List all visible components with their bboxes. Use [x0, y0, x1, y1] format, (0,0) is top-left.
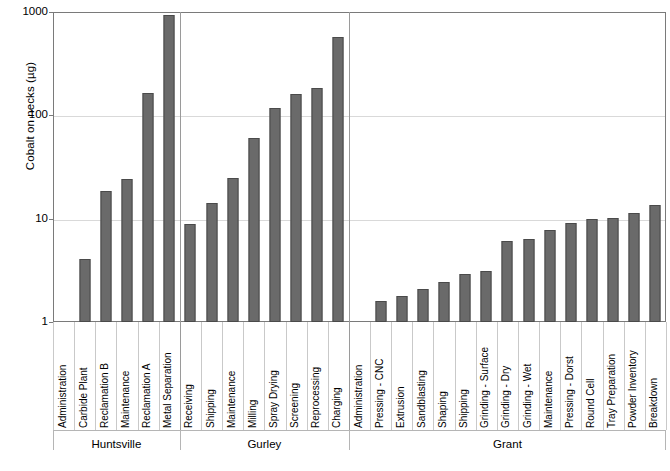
category-separator	[286, 322, 287, 430]
y-tick-label: 10	[8, 213, 48, 225]
category-separator	[53, 322, 54, 430]
bar	[650, 205, 661, 322]
category-separator	[264, 322, 265, 430]
bar-slot	[243, 12, 264, 322]
bar-slot	[138, 12, 159, 322]
category-separator	[518, 322, 519, 430]
category-label: Shipping	[459, 389, 469, 428]
bar-slot	[307, 12, 328, 322]
category-separator	[497, 322, 498, 430]
bar	[248, 138, 259, 322]
bar-slot	[497, 12, 518, 322]
category-label: Grinding - Dry	[501, 366, 511, 428]
y-tick-mark	[49, 322, 53, 323]
bar	[608, 218, 619, 322]
category-label: Maintenance	[227, 371, 237, 428]
category-separator	[603, 322, 604, 430]
category-label: Pressing - CNC	[375, 359, 385, 428]
bars-layer	[53, 12, 666, 322]
category-label: Metal Separation	[163, 352, 173, 428]
category-separator	[433, 322, 434, 430]
bar	[121, 179, 132, 322]
category-label: Pressing - Dorst	[565, 356, 575, 428]
category-separator	[95, 322, 96, 430]
bar	[206, 203, 217, 322]
category-separator	[370, 322, 371, 430]
y-tick-mark	[49, 115, 53, 116]
group-label: Huntsville	[53, 438, 180, 450]
group-rule	[53, 430, 180, 431]
category-separator	[328, 322, 329, 430]
bar	[291, 94, 302, 322]
bar-slot	[53, 12, 74, 322]
category-separator	[138, 322, 139, 430]
category-separator	[201, 322, 202, 430]
category-separator	[391, 322, 392, 430]
category-separator	[560, 322, 561, 430]
bar	[375, 301, 386, 322]
category-label: Powder Inventory	[628, 350, 638, 428]
bar-slot	[476, 12, 497, 322]
category-separator	[307, 322, 308, 430]
category-separator	[243, 322, 244, 430]
group-rule	[180, 430, 349, 431]
bar-slot	[286, 12, 307, 322]
category-label: Administration	[58, 365, 68, 428]
bar-slot	[624, 12, 645, 322]
y-tick-mark	[49, 219, 53, 220]
category-separator	[116, 322, 117, 430]
group-label-band: HuntsvilleGurleyGrant	[53, 430, 666, 462]
category-label: Administration	[354, 365, 364, 428]
category-label: Reclamation B	[100, 363, 110, 428]
category-label: Milling	[248, 400, 258, 428]
y-tick-label: 1000	[8, 6, 48, 18]
category-label: Sandblasting	[417, 370, 427, 428]
bar-slot	[433, 12, 454, 322]
bar-slot	[201, 12, 222, 322]
bar-slot	[222, 12, 243, 322]
bar	[565, 223, 576, 322]
category-label: Shipping	[206, 389, 216, 428]
category-label-band: AdministrationCarbide PlantReclamation B…	[53, 322, 666, 430]
bar-slot	[645, 12, 666, 322]
bar-slot	[370, 12, 391, 322]
bar	[523, 239, 534, 322]
bar-slot	[180, 12, 201, 322]
bar	[100, 191, 111, 322]
bar-slot	[539, 12, 560, 322]
bar	[417, 289, 428, 322]
category-separator	[74, 322, 75, 430]
bar-slot	[391, 12, 412, 322]
bar	[629, 213, 640, 322]
bar-slot	[159, 12, 180, 322]
bar-slot	[116, 12, 137, 322]
category-label: Spray Drying	[269, 370, 279, 428]
bar	[143, 93, 154, 322]
category-label: Maintenance	[121, 371, 131, 428]
category-label: Breakdown	[649, 378, 659, 428]
bar	[460, 274, 471, 322]
cobalt-on-necks-bar-chart: Cobalt on necks (µg) AdministrationCarbi…	[0, 0, 670, 471]
category-label: Grinding - Surface	[480, 347, 490, 428]
category-separator	[412, 322, 413, 430]
bar-slot	[455, 12, 476, 322]
bar-slot	[581, 12, 602, 322]
bar-slot	[95, 12, 116, 322]
category-label: Receiving	[184, 384, 194, 428]
bar	[396, 296, 407, 322]
bar-slot	[560, 12, 581, 322]
bar	[502, 241, 513, 322]
bar	[587, 219, 598, 322]
category-separator	[159, 322, 160, 430]
category-separator	[222, 322, 223, 430]
bar	[164, 15, 175, 322]
bar-slot	[603, 12, 624, 322]
category-label: Shaping	[438, 391, 448, 428]
bar-slot	[74, 12, 95, 322]
category-label: Round Cell	[586, 379, 596, 428]
y-tick-label: 100	[8, 109, 48, 121]
category-label: Maintenance	[544, 371, 554, 428]
bar	[185, 224, 196, 322]
category-label: Carbide Plant	[79, 367, 89, 428]
group-divider	[180, 12, 181, 430]
